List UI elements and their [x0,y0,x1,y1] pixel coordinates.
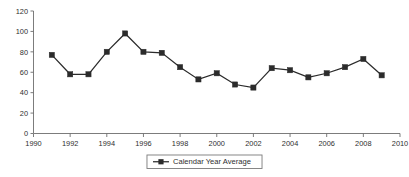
data-point-marker [68,72,73,77]
data-point-marker [196,77,201,82]
series-line [52,33,382,87]
data-point-marker [214,71,219,76]
data-series-group [49,31,384,90]
chart-legend: Calendar Year Average [147,155,262,169]
data-point-marker [159,50,164,55]
y-tick-label: 100 [16,27,28,36]
y-axis: 020406080100120 [16,7,34,139]
y-tick-label: 40 [20,88,28,97]
y-tick-label: 0 [24,129,28,138]
data-point-marker [49,52,54,57]
data-point-marker [306,75,311,80]
x-tick-label: 2000 [209,139,225,148]
x-tick-label: 2002 [245,139,261,148]
data-point-marker [232,82,237,87]
data-point-marker [342,65,347,70]
y-tick-label: 120 [16,7,28,16]
x-tick-label: 2004 [282,139,298,148]
data-point-marker [379,73,384,78]
y-tick-group: 020406080100120 [16,7,34,139]
x-tick-label: 1992 [62,139,78,148]
data-point-marker [287,68,292,73]
x-tick-label: 2006 [318,139,334,148]
y-tick-label: 60 [20,68,28,77]
x-tick-label: 2010 [392,139,408,148]
data-point-marker [104,49,109,54]
x-tick-label: 1998 [172,139,188,148]
data-point-marker [324,71,329,76]
line-chart: 020406080100120 199019921994199619982000… [0,0,409,177]
legend-marker-icon [158,159,163,164]
x-axis: 1990199219941996199820002002200420062008… [25,134,408,148]
data-point-marker [123,31,128,36]
y-tick-label: 20 [20,109,28,118]
x-tick-label: 1996 [135,139,151,148]
x-tick-label: 1994 [99,139,115,148]
chart-canvas: 020406080100120 199019921994199619982000… [0,0,409,177]
data-point-marker [178,65,183,70]
legend-label: Calendar Year Average [173,157,251,166]
y-tick-label: 80 [20,48,28,57]
data-point-marker [269,66,274,71]
data-point-marker [251,85,256,90]
data-point-marker [86,72,91,77]
x-tick-label: 1990 [25,139,41,148]
data-point-marker [361,56,366,61]
x-tick-label: 2008 [355,139,371,148]
x-tick-group: 1990199219941996199820002002200420062008… [25,134,408,148]
data-point-marker [141,49,146,54]
